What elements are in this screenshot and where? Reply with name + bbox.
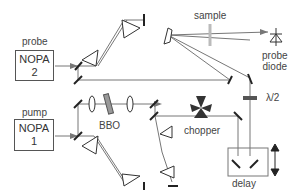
double-arrow-icon <box>271 144 279 176</box>
waveplate-icon <box>243 96 257 100</box>
nopa1-label: NOPA <box>15 122 53 135</box>
nopa1-box: NOPA 1 <box>14 119 54 151</box>
bbo-label: BBO <box>99 120 120 131</box>
waveplate-label: λ/2 <box>266 92 279 103</box>
photodiode-icon <box>270 28 282 46</box>
lens-icon <box>89 96 95 112</box>
nopa2-label: NOPA <box>16 53 53 66</box>
optical-setup-diagram <box>0 0 297 196</box>
nopa2-box: NOPA 2 <box>15 50 54 81</box>
pump-label: pump <box>22 107 47 118</box>
probe-diode-line2: diode <box>262 61 288 72</box>
probe-label: probe <box>22 36 48 47</box>
sample-label: sample <box>194 10 226 21</box>
curved-mirror-icon <box>164 28 172 44</box>
delay-label: delay <box>232 178 256 189</box>
probe-diode-label: probe diode <box>262 50 288 72</box>
chopper-icon <box>190 96 212 118</box>
nopa2-number: 2 <box>16 66 53 79</box>
nopa1-number: 1 <box>15 135 53 148</box>
chopper-label: chopper <box>184 125 220 136</box>
probe-diode-line1: probe <box>262 50 288 61</box>
lens-icon <box>127 96 133 112</box>
